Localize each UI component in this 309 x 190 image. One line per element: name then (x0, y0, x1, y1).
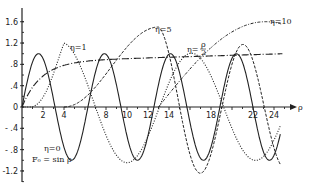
x-axis-arrow-icon (290, 104, 297, 110)
svg-text:22: 22 (248, 111, 258, 120)
label-eta-0: η=0 (44, 144, 61, 153)
svg-text:2: 2 (201, 48, 206, 57)
svg-text:18: 18 (206, 111, 216, 120)
coulomb-function-chart: ρ 1.61.2.8.40- .4- .8-1.2 24810121418222… (0, 0, 309, 190)
svg-text:24: 24 (269, 111, 279, 120)
svg-text:14: 14 (164, 111, 174, 120)
label-f0-sin-rho: F₀ = sin ρ (32, 155, 72, 164)
curve-eta-5 (64, 27, 280, 173)
y-ticks: 1.61.2.8.40- .4- .8-1.2 (2, 18, 24, 182)
label-eta-rho-half: η= ρ 2 (187, 40, 206, 57)
svg-text:1.6: 1.6 (5, 18, 18, 27)
curve-eta-rho-half (22, 54, 282, 107)
svg-text:8: 8 (103, 111, 108, 120)
label-eta-10: η=10 (270, 17, 292, 26)
x-axis-label: ρ (298, 103, 303, 112)
svg-text:.4: .4 (10, 82, 18, 91)
label-eta-5: η=5 (155, 25, 172, 34)
svg-text:.8: .8 (10, 60, 18, 69)
svg-text:4: 4 (61, 111, 66, 120)
svg-text:-1.2: -1.2 (2, 167, 18, 176)
svg-text:- .8: - .8 (5, 146, 18, 155)
svg-text:- .4: - .4 (5, 124, 18, 133)
svg-text:η=: η= (187, 45, 199, 54)
svg-text:0: 0 (13, 103, 18, 112)
svg-text:2: 2 (40, 111, 45, 120)
svg-text:1.2: 1.2 (5, 39, 18, 48)
label-eta-1: η=1 (70, 43, 87, 52)
